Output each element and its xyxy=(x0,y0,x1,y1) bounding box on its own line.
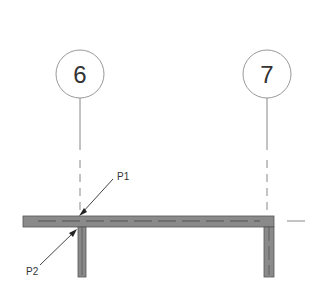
leader-p2: P2 xyxy=(26,229,77,277)
grid-bubble-7: 7 xyxy=(243,50,291,98)
grid-bubble-6: 6 xyxy=(56,50,104,98)
label-p2: P2 xyxy=(26,266,39,277)
wall-structure xyxy=(23,216,274,277)
label-p1: P1 xyxy=(117,171,130,182)
grid-label-6: 6 xyxy=(73,61,86,88)
grid-label-7: 7 xyxy=(260,61,273,88)
leader-p1: P1 xyxy=(79,171,130,216)
floor-plan-diagram: 6 7 P1 P2 xyxy=(0,0,327,285)
drawing-canvas: 6 7 P1 P2 xyxy=(0,0,327,285)
